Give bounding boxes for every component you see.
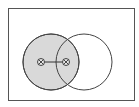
venn-svg (0, 0, 139, 107)
venn-diagram (0, 0, 139, 107)
circled-x-marker-icon (63, 59, 70, 66)
circled-x-marker-icon (38, 59, 45, 66)
